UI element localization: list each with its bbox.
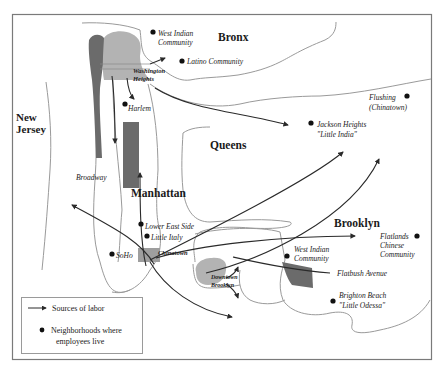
label-flushing-2: (Chinatown) xyxy=(369,103,407,112)
label-manhattan: Manhattan xyxy=(131,187,187,199)
label-flatlands-2: Chinese xyxy=(380,241,405,250)
legend-neighborhoods-1: Neighborhoods where xyxy=(51,326,122,335)
label-soho: SoHo xyxy=(116,251,133,260)
dot-flatlands xyxy=(414,233,419,238)
label-flatbush-avenue: Flatbush Avenue xyxy=(336,269,388,278)
label-brighton-beach-1: Brighton Beach xyxy=(339,291,387,300)
dot-soho xyxy=(109,251,114,256)
dot-west-indian-brooklyn xyxy=(284,253,289,258)
label-harlem: Harlem xyxy=(127,104,151,113)
label-west-indian-bronx-2: Community xyxy=(158,38,193,47)
label-new-jersey-1: New xyxy=(16,111,37,123)
dot-lower-east-side xyxy=(138,221,143,226)
label-queens: Queens xyxy=(210,139,247,151)
label-washington-heights-2: Heights xyxy=(132,75,154,82)
label-lower-east-side: Lower East Side xyxy=(144,222,195,231)
label-chinatown: Chinatown xyxy=(158,249,188,256)
label-jackson-heights-2: "Little India" xyxy=(317,130,358,139)
label-west-indian-bronx-1: West Indian xyxy=(158,29,194,38)
legend: Sources of labor Neighborhoods where emp… xyxy=(22,298,143,354)
label-broadway: Broadway xyxy=(76,173,107,182)
legend-neighborhoods-2: employees live xyxy=(56,337,105,346)
dot-jackson-heights xyxy=(308,120,313,125)
label-jackson-heights-1: Jackson Heights xyxy=(317,120,366,129)
dot-harlem xyxy=(122,101,127,106)
label-downtown-brooklyn-1: Downtown xyxy=(210,274,238,280)
label-flatlands-1: Flatlands xyxy=(379,232,409,241)
label-washington-heights-1: Washington xyxy=(133,67,165,74)
dot-little-italy xyxy=(144,233,149,238)
chinatown-area xyxy=(138,248,160,262)
label-downtown-brooklyn-2: Brooklyn xyxy=(210,282,235,288)
label-west-indian-brooklyn-2: Community xyxy=(294,254,329,263)
dot-flushing xyxy=(404,93,409,98)
dark-rect-manhattan xyxy=(123,122,139,188)
dot-west-indian-bronx xyxy=(150,29,155,34)
label-flatlands-3: Community xyxy=(380,250,415,259)
label-flushing-1: Flushing xyxy=(368,93,396,102)
label-new-jersey-2: Jersey xyxy=(16,123,46,135)
dot-brighton-beach xyxy=(330,298,335,303)
label-west-indian-brooklyn-1: West Indian xyxy=(294,245,330,254)
dot-latino xyxy=(179,58,184,63)
legend-dot-icon xyxy=(40,328,45,333)
nyc-labor-map: Bronx New Jersey Queens Manhattan Brookl… xyxy=(0,0,442,368)
label-latino: Latino Community xyxy=(186,57,244,66)
label-little-italy: Little Italy xyxy=(150,233,183,242)
label-brighton-beach-2: "Little Odessa" xyxy=(339,301,386,310)
legend-sources-of-labor: Sources of labor xyxy=(52,304,105,313)
label-brooklyn: Brooklyn xyxy=(334,217,380,230)
label-bronx: Bronx xyxy=(218,31,249,43)
